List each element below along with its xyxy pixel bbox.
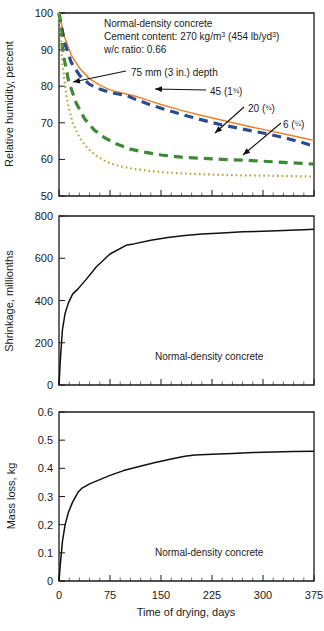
- rh-info-cement-b: (454 lb/yd: [225, 31, 272, 42]
- annotation-arrow-head: [73, 78, 80, 84]
- y-tick-label: 0.3: [38, 491, 53, 503]
- rh-label-20mm: 20 (¾): [248, 103, 275, 115]
- y-tick-label: 200: [35, 337, 53, 349]
- rh-info-line-2: Cement content: 270 kg/m3 (454 lb/yd3): [104, 30, 279, 42]
- mass-loss-series-group: [59, 451, 314, 581]
- shrinkage-y-axis-title: Shrinkage, millionths: [3, 250, 15, 352]
- y-tick-label: 60: [41, 153, 53, 165]
- mass-loss-x-tick-labels: 075150225300375: [56, 589, 323, 601]
- y-tick-label: 0.6: [38, 406, 53, 418]
- y-tick-label: 0: [47, 379, 53, 391]
- y-tick-label: 800: [35, 210, 53, 222]
- mass-loss-y-axis-title: Mass loss, kg: [5, 463, 17, 530]
- rh-label-75mm: 75 mm (3 in.) depth: [131, 67, 218, 78]
- rh-label-45-main: 45 (1: [210, 86, 233, 97]
- rh-label-6-end: ): [301, 119, 304, 130]
- y-tick-label: 0.1: [38, 547, 53, 559]
- x-tick-label: 0: [56, 589, 62, 601]
- y-tick-label: 50: [41, 190, 53, 202]
- y-tick-label: 0: [47, 575, 53, 587]
- rh-info-line-1: Normal-density concrete: [104, 18, 213, 29]
- x-tick-label: 225: [203, 589, 221, 601]
- y-tick-label: 100: [35, 7, 53, 19]
- rh-label-20-end: ): [272, 103, 275, 114]
- shrinkage-y-tick-labels: 0200400600800: [35, 210, 53, 391]
- y-tick-label: 0.5: [38, 434, 53, 446]
- y-tick-label: 70: [41, 117, 53, 129]
- panel-relative-humidity: 5060708090100 Relative humidity, percent…: [0, 0, 324, 210]
- annotation-arrow-head: [155, 86, 162, 92]
- rh-label-6mm: 6 (¼): [283, 119, 304, 131]
- relative-humidity-chart: 5060708090100 Relative humidity, percent…: [0, 0, 324, 210]
- panel-shrinkage: 0200400600800 Shrinkage, millionths Norm…: [0, 205, 324, 405]
- y-tick-label: 600: [35, 252, 53, 264]
- rh-y-tick-labels: 5060708090100: [35, 7, 53, 202]
- x-tick-label: 300: [254, 589, 272, 601]
- x-tick-label: 375: [305, 589, 323, 601]
- series-line-normal-density-concrete: [59, 451, 314, 581]
- y-tick-label: 90: [41, 44, 53, 56]
- y-tick-label: 400: [35, 295, 53, 307]
- y-tick-label: 0.2: [38, 519, 53, 531]
- shrinkage-inline-label: Normal-density concrete: [155, 351, 264, 362]
- rh-label-6-main: 6 (: [283, 119, 295, 130]
- shrinkage-chart: 0200400600800 Shrinkage, millionths Norm…: [0, 205, 324, 405]
- rh-y-axis-title: Relative humidity, percent: [3, 41, 15, 167]
- rh-label-45-end: ): [239, 86, 242, 97]
- y-tick-label: 0.4: [38, 462, 53, 474]
- mass-loss-inline-label: Normal-density concrete: [155, 547, 264, 558]
- y-tick-label: 80: [41, 80, 53, 92]
- annotation-arrow-line: [155, 89, 206, 90]
- annotation-arrow-line: [243, 123, 281, 155]
- concrete-drying-figure: 5060708090100 Relative humidity, percent…: [0, 0, 324, 631]
- rh-label-20-main: 20 (: [248, 103, 266, 114]
- mass-loss-y-tick-labels: 00.10.20.30.40.50.6: [38, 406, 53, 587]
- rh-info-line-3: w/c ratio: 0.66: [103, 44, 167, 55]
- mass-loss-x-axis-title: Time of drying, days: [137, 606, 236, 618]
- x-tick-label: 75: [104, 589, 116, 601]
- rh-label-45mm: 45 (1¾): [210, 86, 242, 98]
- panel-mass-loss: 00.10.20.30.40.50.6 075150225300375 Mass…: [0, 400, 324, 631]
- rh-info-cement-c: ): [276, 31, 279, 42]
- x-tick-label: 150: [152, 589, 170, 601]
- mass-loss-chart: 00.10.20.30.40.50.6 075150225300375 Mass…: [0, 400, 324, 631]
- rh-info-cement-a: Cement content: 270 kg/m: [104, 31, 221, 42]
